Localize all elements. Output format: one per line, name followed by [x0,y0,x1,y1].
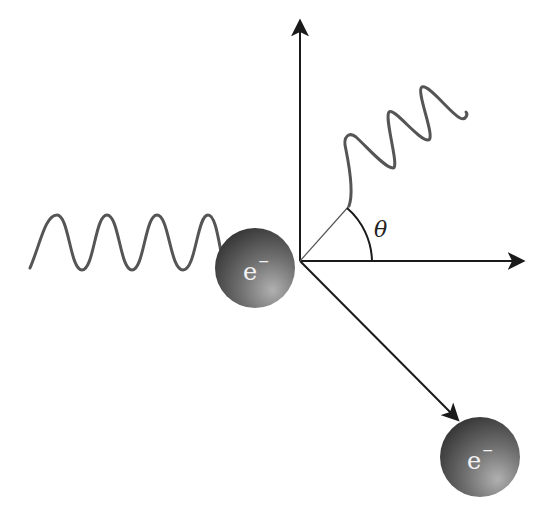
incident-photon-wave [30,215,226,270]
electron-scattered-label: e [467,447,481,475]
electron-initial-label: e [243,258,257,286]
angle-label: θ [374,217,387,242]
scattered-photon-direction [300,206,349,261]
recoil-electron-arrow [300,261,457,419]
angle-arc [347,208,372,261]
electron-initial: e − [215,228,295,308]
compton-scattering-diagram: θ e − e − [0,0,548,531]
electron-initial-charge: − [258,253,270,269]
electron-scattered-charge: − [482,442,494,458]
scattered-photon-wave [345,87,467,206]
electron-scattered: e − [440,417,520,497]
